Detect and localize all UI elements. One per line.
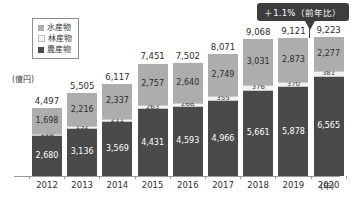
segment-value-label: 4,431	[141, 139, 164, 147]
x-axis-tick	[135, 176, 136, 179]
stacked-bar-chart: 水産物 林産物 農産物 (億円) ＋1.1%（前年比） 2,6801181,69…	[0, 0, 350, 204]
bar-segment-fish-2019[interactable]: 2,873	[278, 38, 308, 81]
segment-value-label: 2,749	[212, 71, 235, 79]
x-axis-tick	[170, 176, 171, 179]
bar-segment-fish-2014[interactable]: 2,337	[102, 84, 132, 119]
bar-segment-fish-2016[interactable]: 2,640	[173, 63, 203, 103]
bar-total-label-2020: 9,223	[310, 25, 348, 35]
segment-value-label: 376	[252, 84, 265, 91]
bar-segment-fish-2017[interactable]: 2,749	[208, 54, 238, 96]
bar-segment-fore-2020[interactable]: 381	[314, 71, 344, 77]
x-axis-tick	[275, 176, 276, 179]
segment-value-label: 3,569	[106, 145, 129, 153]
bar-segment-agri-2015[interactable]: 4,431	[138, 109, 168, 176]
bar-segment-agri-2019[interactable]: 5,878	[278, 87, 308, 176]
stacked-bar[interactable]: 4,5932682,640	[173, 63, 203, 176]
bar-total-label-2015: 7,451	[134, 51, 172, 61]
bar-segment-agri-2013[interactable]: 3,136	[67, 129, 97, 176]
x-axis-line	[14, 176, 340, 177]
bar-segment-fore-2013[interactable]: 152	[67, 126, 97, 128]
segment-value-label: 2,277	[317, 50, 340, 58]
x-axis-tick	[205, 176, 206, 179]
segment-value-label: 2,757	[141, 80, 164, 88]
bar-segment-fish-2020[interactable]: 2,277	[314, 37, 344, 71]
stacked-bar[interactable]: 3,5692112,337	[102, 84, 132, 176]
segment-value-label: 2,873	[282, 56, 305, 64]
stacked-bar[interactable]: 6,5653812,277	[314, 37, 344, 176]
stacked-bar[interactable]: 5,6613763,031	[243, 39, 273, 176]
segment-value-label: 5,661	[247, 129, 270, 137]
x-axis-label-2020: 2020	[307, 180, 350, 190]
bar-segment-fore-2012[interactable]: 118	[32, 134, 62, 136]
segment-value-label: 2,216	[71, 106, 94, 114]
bar-segment-agri-2012[interactable]: 2,680	[32, 136, 62, 176]
segment-value-label: 2,680	[36, 152, 59, 160]
bar-segment-agri-2017[interactable]: 4,966	[208, 101, 238, 176]
bar-segment-fore-2015[interactable]: 263	[138, 105, 168, 109]
bar-segment-agri-2014[interactable]: 3,569	[102, 122, 132, 176]
segment-value-label: 2,640	[176, 79, 199, 87]
bar-segment-fish-2012[interactable]: 1,698	[32, 108, 62, 134]
bar-total-label-2013: 5,505	[63, 81, 101, 91]
bar-segment-fish-2015[interactable]: 2,757	[138, 64, 168, 106]
bar-total-label-2014: 6,117	[98, 72, 136, 82]
bar-segment-fish-2013[interactable]: 2,216	[67, 93, 97, 126]
x-axis-tick	[346, 176, 347, 179]
x-axis-tick	[240, 176, 241, 179]
stacked-bar[interactable]: 3,1361522,216	[67, 93, 97, 176]
bar-total-label-2016: 7,502	[169, 51, 207, 61]
segment-value-label: 5,878	[282, 128, 305, 136]
x-axis-tick	[311, 176, 312, 179]
segment-value-label: 3,136	[71, 148, 94, 156]
bar-segment-agri-2020[interactable]: 6,565	[314, 77, 344, 176]
x-axis-tick	[99, 176, 100, 179]
bar-segment-fore-2018[interactable]: 376	[243, 85, 273, 91]
segment-value-label: 1,698	[36, 117, 59, 125]
bar-segment-fore-2019[interactable]: 370	[278, 82, 308, 88]
bar-segment-agri-2018[interactable]: 5,661	[243, 91, 273, 176]
bar-total-label-2018: 9,068	[239, 27, 277, 37]
bar-segment-fore-2014[interactable]: 211	[102, 119, 132, 122]
stacked-bar[interactable]: 4,4312632,757	[138, 63, 168, 176]
segment-value-label: 381	[322, 70, 335, 77]
segment-value-label: 6,565	[317, 122, 340, 130]
bar-total-label-2012: 4,497	[28, 96, 66, 106]
bar-segment-fish-2018[interactable]: 3,031	[243, 39, 273, 85]
segment-value-label: 3,031	[247, 58, 270, 66]
bar-segment-fore-2016[interactable]: 268	[173, 103, 203, 107]
x-axis-tick	[64, 176, 65, 179]
segment-value-label: 2,337	[106, 97, 129, 105]
stacked-bar[interactable]: 4,9663552,749	[208, 54, 238, 176]
bar-total-label-2019: 9,121	[274, 26, 312, 36]
x-axis-tick	[29, 176, 30, 179]
segment-value-label: 4,593	[176, 137, 199, 145]
bar-segment-fore-2017[interactable]: 355	[208, 96, 238, 101]
bar-total-label-2017: 8,071	[204, 42, 242, 52]
segment-value-label: 370	[287, 81, 300, 88]
stacked-bar[interactable]: 2,6801181,698	[32, 108, 62, 176]
segment-value-label: 355	[216, 95, 229, 102]
bar-segment-agri-2016[interactable]: 4,593	[173, 107, 203, 176]
segment-value-label: 4,966	[212, 135, 235, 143]
plot-area: 2,6801181,6984,4973,1361522,2165,5053,56…	[18, 14, 338, 176]
stacked-bar[interactable]: 5,8783702,873	[278, 38, 308, 176]
